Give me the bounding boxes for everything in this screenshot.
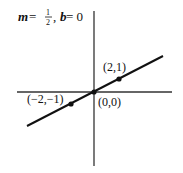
title-eq1: = <box>29 9 36 24</box>
title-eq2: = 0 <box>66 9 83 24</box>
title-frac-den: 2 <box>46 18 50 27</box>
label-origin: (0,0) <box>98 95 121 109</box>
point-neg2-neg1 <box>68 101 73 106</box>
label-2-1: (2,1) <box>103 60 126 74</box>
point-origin <box>91 89 96 94</box>
title-sep: , <box>53 9 56 24</box>
title-frac-num: 1 <box>46 8 50 17</box>
label-neg2-neg1: (−2,−1) <box>27 92 64 106</box>
point-2-1 <box>116 76 121 81</box>
line-graph: m = 1 2 , b = 0 (2,1) (0,0) (−2,−1) <box>0 0 183 173</box>
title-m: m <box>18 9 28 24</box>
